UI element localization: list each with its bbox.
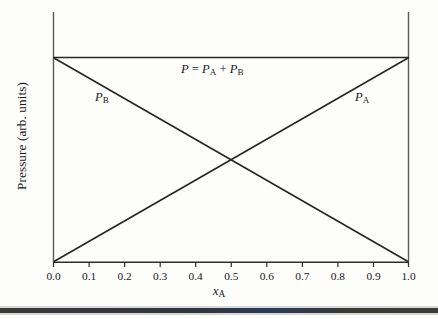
x-tick-label-1: 0.1 bbox=[69, 270, 109, 282]
pb-curve-label: PB bbox=[95, 90, 109, 105]
x-tick-label-9: 0.9 bbox=[354, 270, 394, 282]
x-tick-label-6: 0.6 bbox=[247, 270, 287, 282]
x-axis-label: xA bbox=[0, 283, 438, 299]
x-tick-label-10: 1.0 bbox=[389, 270, 429, 282]
x-tick-label-0: 0.0 bbox=[34, 270, 74, 282]
pb-symbol: P bbox=[95, 90, 103, 104]
page-edge-shadow-secondary bbox=[0, 313, 438, 315]
equation-symbol-pa: P bbox=[202, 62, 210, 76]
x-axis-ticks bbox=[54, 263, 409, 268]
figure-canvas: Pressure (arb. units) P = PA + PB PB PA … bbox=[0, 0, 438, 319]
pa-symbol: P bbox=[355, 90, 363, 104]
y-axis-label: Pressure (arb. units) bbox=[14, 36, 30, 236]
x-axis-subscript: A bbox=[219, 289, 226, 299]
equation-equals: = bbox=[189, 62, 202, 76]
x-tick-label-3: 0.3 bbox=[140, 270, 180, 282]
x-tick-label-2: 0.2 bbox=[105, 270, 145, 282]
x-tick-label-5: 0.5 bbox=[211, 270, 251, 282]
total-pressure-equation: P = PA + PB bbox=[181, 62, 244, 77]
x-tick-label-4: 0.4 bbox=[176, 270, 216, 282]
equation-symbol-p: P bbox=[181, 62, 189, 76]
equation-plus: + bbox=[216, 62, 229, 76]
equation-subscript-b: B bbox=[237, 67, 243, 77]
x-tick-label-7: 0.7 bbox=[282, 270, 322, 282]
pa-curve-label: PA bbox=[355, 90, 369, 105]
pa-subscript: A bbox=[363, 95, 370, 105]
x-tick-label-8: 0.8 bbox=[318, 270, 358, 282]
pb-subscript: B bbox=[103, 95, 109, 105]
